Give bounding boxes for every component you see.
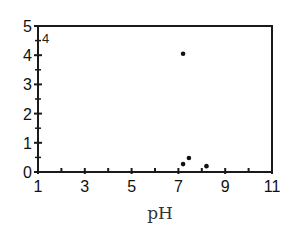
- x-tick-label: 7: [174, 178, 183, 195]
- x-tick-label: 3: [80, 178, 89, 195]
- x-tick-label: 11: [264, 178, 281, 195]
- y-tick-label: 0: [23, 164, 32, 181]
- y-tick-label: 2: [23, 106, 32, 123]
- x-tick-label: 9: [221, 178, 230, 195]
- data-point: [187, 156, 192, 161]
- y-axis-ticks: 012345: [23, 18, 42, 181]
- y-tick-label: 4: [23, 47, 32, 64]
- y-tick-label: 5: [23, 18, 32, 35]
- plot-border: [38, 26, 272, 172]
- y-tick-label: 1: [23, 135, 32, 152]
- data-point: [181, 51, 186, 56]
- panel-label: 4: [42, 31, 49, 46]
- x-tick-label: 1: [34, 178, 43, 195]
- y-tick-label: 3: [23, 76, 32, 93]
- x-axis-title: pH: [147, 203, 173, 223]
- data-points: [181, 51, 209, 168]
- scatter-chart: 012345 1357911 4 pH: [0, 0, 292, 232]
- x-tick-label: 5: [127, 178, 136, 195]
- data-point: [181, 162, 186, 167]
- plot-frame: [38, 26, 272, 172]
- data-point: [204, 164, 209, 169]
